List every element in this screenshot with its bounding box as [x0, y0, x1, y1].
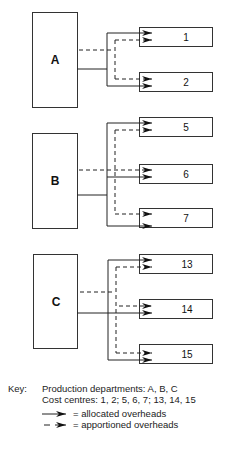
cost-centre-label-5: 5: [183, 122, 189, 133]
cost-centre-box-7: [140, 209, 213, 228]
group-a: A 1 2: [33, 13, 213, 108]
group-b: B 5 6 7: [33, 118, 213, 229]
allocated-line: [77, 33, 107, 86]
apportioned-line: [79, 40, 115, 79]
department-label-c: C: [52, 295, 61, 309]
cost-centre-box-1: [140, 28, 213, 47]
cost-centre-label-6: 6: [183, 169, 189, 180]
key-cost-centres: Cost centres: 1, 2; 5, 6, 7; 13, 14, 15: [42, 394, 196, 405]
cost-centre-label-2: 2: [183, 77, 189, 88]
key-allocated-label: = allocated overheads: [73, 408, 166, 419]
group-c: C 13 14 15: [34, 255, 213, 364]
cost-centre-box-2: [140, 73, 213, 92]
cost-centre-box-6: [140, 165, 213, 184]
key-apportioned-label: = apportioned overheads: [73, 419, 178, 430]
department-label-a: A: [51, 53, 60, 67]
key-title: Key:: [8, 383, 27, 394]
cost-centre-box-13: [140, 255, 213, 274]
cost-centre-label-15: 15: [181, 349, 193, 360]
cost-centre-label-1: 1: [183, 32, 189, 43]
cost-centre-box-14: [140, 300, 213, 319]
department-label-b: B: [51, 174, 60, 188]
key-departments: Production departments: A, B, C: [42, 383, 178, 394]
cost-centre-box-15: [140, 345, 213, 364]
cost-centre-label-14: 14: [181, 304, 193, 315]
cost-centre-box-5: [140, 118, 213, 137]
cost-centre-label-7: 7: [183, 213, 189, 224]
cost-centre-label-13: 13: [181, 259, 193, 270]
apportioned-line: [80, 267, 116, 353]
allocated-line: [77, 123, 107, 226]
